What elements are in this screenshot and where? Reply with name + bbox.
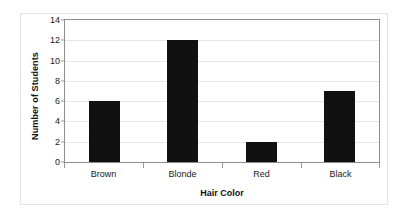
x-axis-tick-mark	[64, 163, 65, 168]
x-axis-tick-labels: BrownBlondeRedBlack	[64, 169, 380, 185]
bar-red	[246, 142, 277, 162]
x-axis-tick-mark	[301, 163, 302, 168]
y-axis-tick-label: 14	[50, 15, 60, 25]
x-axis-tick-mark	[222, 163, 223, 168]
y-axis-tick-label: 2	[55, 137, 60, 147]
x-axis-tick-mark	[379, 163, 380, 168]
x-axis-tick-marks	[64, 163, 380, 168]
y-axis-title: Number of Students	[26, 26, 44, 166]
bar-slot	[144, 20, 223, 162]
y-axis-tick-labels: 02468101214	[43, 19, 64, 163]
x-axis-tick-label-blonde: Blonde	[143, 169, 222, 185]
x-axis-tick-label-brown: Brown	[64, 169, 143, 185]
y-axis-tick-label: 0	[55, 157, 60, 167]
bar-brown	[89, 101, 120, 162]
bar-black	[324, 91, 355, 162]
y-axis-tick-label: 10	[50, 56, 60, 66]
bar-slot	[301, 20, 380, 162]
x-axis-tick-mark	[143, 163, 144, 168]
x-axis-tick-label-black: Black	[301, 169, 380, 185]
y-axis-tick-label: 8	[55, 76, 60, 86]
y-axis-title-text: Number of Students	[30, 52, 40, 140]
bar-slot	[65, 20, 144, 162]
plot-area	[64, 19, 380, 163]
bar-slot	[222, 20, 301, 162]
x-axis-title: Hair Color	[64, 188, 380, 198]
chart-frame: Number of Students 02468101214 BrownBlon…	[20, 13, 388, 205]
y-axis-tick-label: 4	[55, 116, 60, 126]
y-axis-tick-label: 6	[55, 96, 60, 106]
bar-blonde	[167, 40, 198, 162]
x-axis-tick-label-red: Red	[222, 169, 301, 185]
bar-series	[65, 20, 379, 162]
y-axis-tick-label: 12	[50, 35, 60, 45]
